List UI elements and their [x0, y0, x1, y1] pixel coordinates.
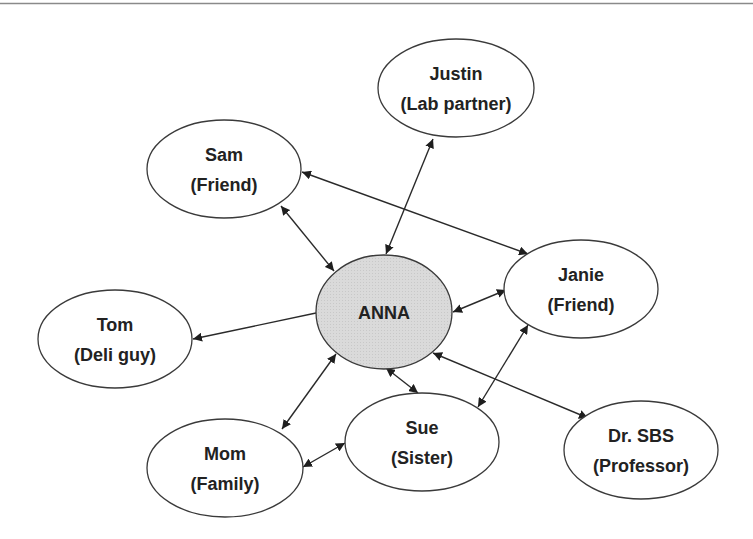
- node-anna-name: ANNA: [358, 303, 410, 323]
- edge-anna-janie-arrow-icon: [453, 290, 506, 312]
- node-sue-role: (Sister): [391, 448, 453, 468]
- node-justin-role: (Lab partner): [400, 94, 511, 114]
- node-sam-ellipse: [147, 120, 301, 218]
- node-drsbs: Dr. SBS(Professor): [564, 401, 718, 499]
- node-sam: Sam(Friend): [147, 120, 301, 218]
- node-drsbs-name: Dr. SBS: [608, 426, 674, 446]
- node-justin-ellipse: [378, 39, 534, 137]
- edge-anna-sue-arrow-icon: [386, 368, 418, 393]
- node-janie-role: (Friend): [548, 295, 615, 315]
- node-janie-name: Janie: [558, 265, 604, 285]
- node-tom: Tom(Deli guy): [38, 290, 192, 388]
- nodes-layer: ANNAJustin(Lab partner)Sam(Friend)Janie(…: [38, 39, 718, 517]
- node-sam-role: (Friend): [191, 175, 258, 195]
- node-sue-ellipse: [345, 393, 499, 491]
- edge-anna-tom-arrow-icon: [193, 313, 316, 339]
- node-sue-name: Sue: [405, 418, 438, 438]
- edge-anna-sam-arrow-icon: [281, 206, 334, 271]
- node-mom-name: Mom: [204, 444, 246, 464]
- edge-janie-sue-arrow-icon: [478, 325, 528, 407]
- node-drsbs-ellipse: [564, 401, 718, 499]
- node-drsbs-role: (Professor): [593, 456, 689, 476]
- social-network-diagram: ANNAJustin(Lab partner)Sam(Friend)Janie(…: [0, 0, 753, 539]
- node-janie: Janie(Friend): [504, 240, 658, 338]
- node-mom: Mom(Family): [147, 419, 303, 517]
- node-justin: Justin(Lab partner): [378, 39, 534, 137]
- edge-anna-mom-arrow-icon: [282, 354, 336, 429]
- node-sue: Sue(Sister): [345, 393, 499, 491]
- node-tom-ellipse: [38, 290, 192, 388]
- node-justin-name: Justin: [429, 64, 482, 84]
- node-anna: ANNA: [316, 255, 452, 369]
- node-janie-ellipse: [504, 240, 658, 338]
- node-tom-role: (Deli guy): [74, 345, 156, 365]
- edge-anna-justin-arrow-icon: [386, 139, 433, 254]
- node-mom-role: (Family): [190, 474, 259, 494]
- edge-mom-sue-arrow-icon: [303, 443, 345, 467]
- node-sam-name: Sam: [205, 145, 243, 165]
- node-tom-name: Tom: [97, 315, 134, 335]
- node-mom-ellipse: [147, 419, 303, 517]
